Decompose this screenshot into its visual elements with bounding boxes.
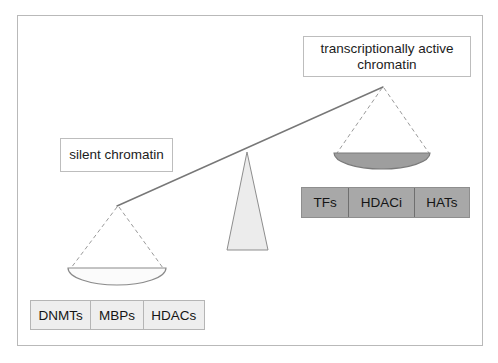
chip-hdacs: HDACs xyxy=(144,301,204,329)
chip-tfs: TFs xyxy=(302,188,349,217)
label-transcriptionally-active-chromatin: transcriptionally active chromatin xyxy=(303,36,471,77)
label-active-text: transcriptionally active chromatin xyxy=(304,41,470,73)
label-silent-chromatin: silent chromatin xyxy=(60,138,173,172)
chip-dnmts: DNMTs xyxy=(31,301,91,329)
label-silent-text: silent chromatin xyxy=(69,147,164,163)
chip-hats: HATs xyxy=(415,188,469,217)
figure-canvas: transcriptionally active chromatin silen… xyxy=(0,0,498,363)
chip-mbps: MBPs xyxy=(91,301,143,329)
repressive-factors-row: DNMTs MBPs HDACs xyxy=(30,300,205,330)
activating-factors-row: TFs HDACi HATs xyxy=(301,187,470,218)
chip-hdaci: HDACi xyxy=(349,188,414,217)
